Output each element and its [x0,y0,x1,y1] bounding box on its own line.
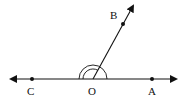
label-c: C [27,85,34,97]
point-c [30,77,34,81]
label-o: O [88,85,96,97]
point-a [150,77,154,81]
geometry-diagram: C O A B [0,0,183,103]
point-b [121,22,125,26]
label-b: B [110,9,117,21]
label-a: A [148,85,156,97]
